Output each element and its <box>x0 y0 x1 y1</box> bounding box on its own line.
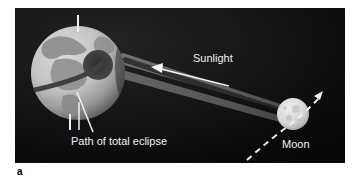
path-of-total-eclipse-label: Path of total eclipse <box>71 135 167 147</box>
moon-group <box>277 98 309 130</box>
eclipse-diagram-svg: Sunlight Path of total eclipse Moon <box>15 8 345 163</box>
moon-crater-1 <box>292 105 300 113</box>
moon-sphere <box>277 98 309 130</box>
sunlight-label: Sunlight <box>193 52 233 64</box>
moon-crater-4 <box>283 106 287 110</box>
moon-crater-2 <box>286 115 292 121</box>
figure-root: Sunlight Path of total eclipse Moon a <box>0 0 355 182</box>
eclipse-diagram-panel: Sunlight Path of total eclipse Moon <box>15 8 345 163</box>
moon-label: Moon <box>282 138 310 150</box>
figure-panel-label: a <box>17 166 23 178</box>
